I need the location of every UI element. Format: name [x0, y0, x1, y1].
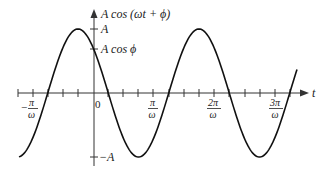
svg-text:ω: ω — [28, 109, 35, 120]
cosine-wave-diagram: t A cos (ωt + ϕ) A A cos ϕ −A − π ω 0 π … — [0, 0, 327, 174]
y-axis-label: A cos (ωt + ϕ) — [100, 7, 170, 21]
x-tick-label-zero: 0 — [95, 98, 101, 110]
svg-text:−: − — [21, 101, 27, 113]
y-axis: A cos (ωt + ϕ) A A cos ϕ −A — [90, 7, 170, 166]
svg-text:ω: ω — [272, 109, 279, 120]
t-axis-label: t — [312, 86, 316, 100]
svg-text:3π: 3π — [269, 97, 281, 108]
x-tick-label-pi-over-omega: π ω — [148, 97, 158, 120]
y-tick-label-neg-A: −A — [99, 150, 115, 164]
x-tick-label-neg-pi-over-omega: − π ω — [21, 97, 38, 120]
svg-text:π: π — [150, 97, 156, 108]
x-tick-labels: − π ω 0 π ω 2π ω 3π ω — [21, 97, 283, 120]
y-tick-label-A-cos-phi: A cos ϕ — [100, 42, 136, 56]
y-axis-arrow-icon — [91, 9, 98, 18]
svg-text:π: π — [29, 97, 35, 108]
x-tick-label-2pi-over-omega: 2π ω — [207, 97, 221, 120]
t-axis-arrow-icon — [300, 90, 309, 97]
y-tick-label-A: A — [100, 22, 109, 36]
svg-text:2π: 2π — [208, 97, 219, 108]
x-tick-label-3pi-over-omega: 3π ω — [269, 97, 283, 120]
svg-text:ω: ω — [210, 109, 217, 120]
svg-text:ω: ω — [149, 109, 156, 120]
